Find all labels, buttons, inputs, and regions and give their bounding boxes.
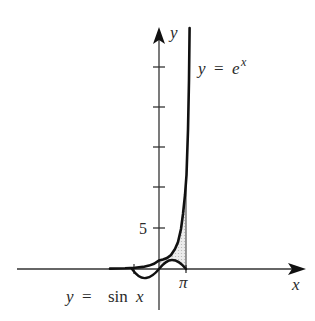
svg-text:y: y	[196, 59, 206, 78]
svg-text:x: x	[240, 55, 247, 69]
svg-text:x: x	[135, 287, 144, 306]
x-axis-label: x	[291, 275, 300, 294]
svg-text:=: =	[214, 59, 224, 78]
exponential-curve-label: y = e x	[196, 55, 247, 78]
y-axis-label: y	[168, 23, 178, 42]
svg-text:sin: sin	[108, 287, 128, 306]
graph-figure: y x 5 π y = e x y = sin x	[0, 0, 315, 321]
svg-text:y: y	[64, 287, 74, 306]
y-tick-label-5: 5	[139, 220, 147, 237]
exponential-curve	[110, 28, 190, 269]
svg-text:e: e	[232, 59, 240, 78]
x-tick-label-pi: π	[179, 273, 188, 292]
svg-text:=: =	[82, 287, 92, 306]
sine-curve-label: y = sin x	[64, 287, 144, 306]
